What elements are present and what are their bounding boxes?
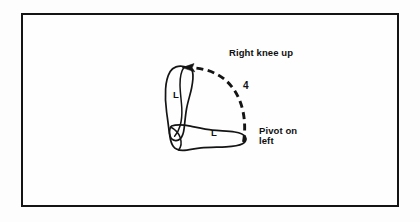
pivot-on-left-annotation: Pivot on left bbox=[259, 126, 297, 147]
figure-page: L L 4 Right knee up Pivot on left bbox=[0, 0, 420, 222]
foot-vertical-label: L bbox=[173, 90, 179, 100]
right-knee-up-annotation: Right knee up bbox=[229, 48, 293, 58]
pivot-arc-arrowhead-icon bbox=[182, 64, 195, 72]
step-number-label: 4 bbox=[243, 81, 249, 92]
footwork-diagram bbox=[0, 0, 420, 222]
foot-horizontal-label: L bbox=[211, 128, 217, 138]
